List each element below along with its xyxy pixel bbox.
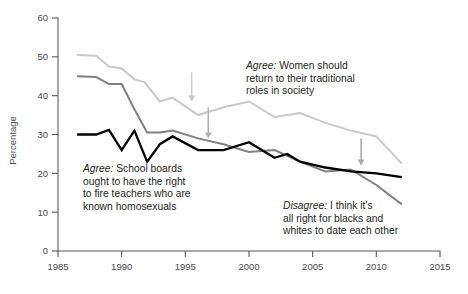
x-tick-label: 2005 [302,261,323,272]
y-tick-label: 60 [37,12,48,23]
y-tick-label: 10 [37,207,48,218]
annotation-school-boards-fire-teachers: Agree: School boards ought to have the r… [83,163,191,213]
annotation-lead: Disagree: [283,200,327,211]
y-axis-title-text: Percentage [7,116,18,165]
y-axis-title: Percentage [7,116,18,165]
y-tick-label: 50 [37,51,48,62]
arrow-school-head [205,132,212,138]
annotation-lead: Agree: [83,163,113,174]
line-chart: 0102030405060 19851990199520002005201020… [0,0,468,294]
y-tick-label: 20 [37,168,48,179]
arrow-date-head [358,160,365,166]
x-tick-label: 2015 [429,261,450,272]
annotation-interracial-dating: Disagree: I think it's all right for bla… [283,200,398,238]
annotation-lead: Agree: [246,60,276,71]
y-tick-label: 30 [37,129,48,140]
x-tick-label: 1995 [175,261,196,272]
x-tick-label: 1990 [111,261,132,272]
arrow-women-head [188,95,195,101]
x-tick-label: 1985 [47,261,68,272]
chart-container: 0102030405060 19851990199520002005201020… [0,0,468,294]
x-tick-label: 2010 [366,261,387,272]
x-tick-label: 2000 [238,261,259,272]
y-axis: 0102030405060 [37,12,58,256]
y-tick-label: 40 [37,90,48,101]
x-axis: 1985199019952000200520102015 [47,251,450,272]
y-tick-label: 0 [43,245,48,256]
annotation-women-traditional-roles: Agree: Women should return to their trad… [246,60,355,98]
